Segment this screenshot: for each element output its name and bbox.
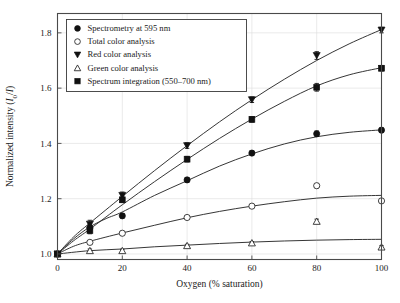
x-axis-title: Oxygen (% saturation) <box>176 279 263 290</box>
fit-curve <box>58 239 382 254</box>
y-tick-label: 1.2 <box>40 194 51 204</box>
legend-label: Green color analysis <box>88 63 159 73</box>
figure-container: 020406080100 1.01.21.41.61.8 Oxygen (% s… <box>0 0 400 303</box>
legend-label: Spectrometry at 595 nm <box>88 23 171 33</box>
marker-open-circle <box>75 39 81 45</box>
marker-filled-down-triangle <box>313 53 320 59</box>
marker-filled-square <box>314 84 320 90</box>
marker-filled-circle <box>119 213 125 219</box>
y-tick-label: 1.4 <box>40 139 52 149</box>
marker-filled-square <box>249 116 255 122</box>
y-tick-label: 1.6 <box>40 83 52 93</box>
marker-filled-circle <box>314 131 320 137</box>
legend-label: Red color analysis <box>88 49 152 59</box>
oxygen-saturation-chart: 020406080100 1.01.21.41.61.8 Oxygen (% s… <box>0 0 400 303</box>
marker-open-circle <box>184 214 190 220</box>
x-tick-labels: 020406080100 <box>55 263 389 273</box>
fit-curve <box>58 68 382 254</box>
marker-filled-square <box>184 156 190 162</box>
marker-filled-square <box>87 228 93 234</box>
marker-open-up-triangle <box>248 240 255 246</box>
x-tick-label: 60 <box>247 263 257 273</box>
fit-curve <box>58 195 382 254</box>
y-tick-labels: 1.01.21.41.61.8 <box>40 28 52 259</box>
svg-text:Normalized intensity (I0/I): Normalized intensity (I0/I) <box>5 86 19 187</box>
marker-open-circle <box>249 203 255 209</box>
marker-open-circle <box>119 230 125 236</box>
y-tick-label: 1.8 <box>40 28 52 38</box>
marker-open-up-triangle <box>119 247 126 253</box>
x-tick-label: 100 <box>375 263 389 273</box>
x-tick-label: 40 <box>183 263 193 273</box>
legend-label: Total color analysis <box>88 36 156 46</box>
x-tick-label: 80 <box>312 263 322 273</box>
legend-label: Spectrum integration (550–700 nm) <box>88 76 212 86</box>
marker-filled-circle <box>75 26 81 32</box>
marker-filled-square <box>119 197 125 203</box>
marker-filled-circle <box>184 177 190 183</box>
marker-open-circle <box>314 183 320 189</box>
x-tick-label: 0 <box>55 263 60 273</box>
marker-filled-square <box>75 79 80 84</box>
marker-open-up-triangle <box>313 218 320 224</box>
fit-curve <box>58 130 382 254</box>
marker-open-circle <box>87 239 93 245</box>
x-tick-label: 20 <box>118 263 128 273</box>
y-axis-title: Normalized intensity (I0/I) <box>5 86 19 187</box>
chart-legend: Spectrometry at 595 nmTotal color analys… <box>67 20 247 92</box>
marker-filled-down-triangle <box>248 97 255 103</box>
y-tick-label: 1.0 <box>40 249 52 259</box>
marker-filled-circle <box>249 150 255 156</box>
